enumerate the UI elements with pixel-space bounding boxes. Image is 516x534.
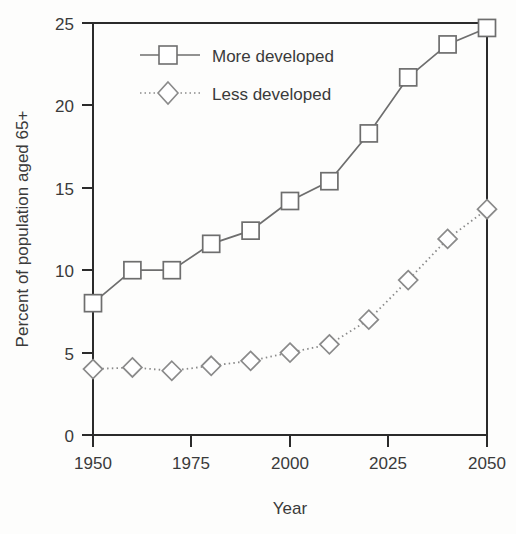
chart-legend: More developed Less developed (140, 46, 334, 104)
legend-entry-more-developed[interactable]: More developed (140, 46, 334, 66)
data-point-marker (359, 310, 378, 329)
y-tick-label-5: 5 (65, 345, 74, 364)
data-point-marker (400, 69, 417, 86)
data-point-marker (399, 271, 418, 290)
legend-entry-less-developed[interactable]: Less developed (140, 82, 331, 104)
y-axis-tick-labels: 25 20 15 10 5 0 (55, 15, 74, 446)
x-tick-label-2050: 2050 (468, 454, 506, 473)
series-line (93, 28, 487, 303)
x-axis-ticks (93, 435, 487, 447)
legend-label-more-developed: More developed (212, 47, 334, 66)
y-tick-label-10: 10 (55, 262, 74, 281)
data-point-marker (478, 200, 497, 219)
population-aging-line-chart: 25 20 15 10 5 0 1950 1975 2000 2025 2050… (0, 0, 516, 534)
x-axis-title: Year (273, 499, 308, 518)
data-point-marker (202, 356, 221, 375)
data-point-marker (123, 358, 142, 377)
data-point-marker (281, 343, 300, 362)
data-point-marker (84, 360, 103, 379)
y-tick-label-0: 0 (65, 427, 74, 446)
y-axis-title: Percent of population aged 65+ (13, 111, 32, 348)
x-tick-label-2000: 2000 (271, 454, 309, 473)
data-point-marker (479, 19, 496, 36)
data-point-marker (438, 229, 457, 248)
data-point-marker (203, 235, 220, 252)
x-tick-label-1950: 1950 (74, 454, 112, 473)
chart-canvas: 25 20 15 10 5 0 1950 1975 2000 2025 2050… (0, 0, 516, 534)
data-point-marker (360, 125, 377, 142)
data-point-marker (85, 295, 102, 312)
y-tick-label-20: 20 (55, 97, 74, 116)
data-point-marker (241, 351, 260, 370)
x-tick-label-1975: 1975 (172, 454, 210, 473)
data-point-marker (124, 262, 141, 279)
diamond-marker-icon (158, 82, 178, 104)
data-point-marker (282, 192, 299, 209)
data-point-marker (320, 335, 339, 354)
y-tick-label-25: 25 (55, 15, 74, 34)
series-less-developed (84, 200, 497, 381)
x-tick-label-2025: 2025 (369, 454, 407, 473)
y-tick-label-15: 15 (55, 180, 74, 199)
x-axis-tick-labels: 1950 1975 2000 2025 2050 (74, 454, 506, 473)
legend-label-less-developed: Less developed (212, 85, 331, 104)
data-point-marker (439, 36, 456, 53)
data-point-marker (162, 361, 181, 380)
data-point-marker (321, 173, 338, 190)
square-marker-icon (159, 46, 177, 64)
data-point-marker (163, 262, 180, 279)
data-point-marker (242, 222, 259, 239)
